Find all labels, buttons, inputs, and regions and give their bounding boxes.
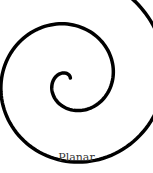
figure-caption: Planar [0,151,153,164]
spiral-diagram [0,0,153,173]
spiral-curve [0,0,153,173]
